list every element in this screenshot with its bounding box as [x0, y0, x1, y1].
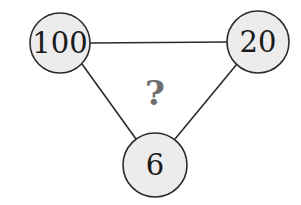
node-top-left-label: 100 — [32, 26, 87, 60]
node-bottom: 6 — [123, 133, 187, 197]
node-bottom-label: 6 — [146, 148, 164, 182]
node-top-right: 20 — [227, 11, 289, 73]
unknown-value-question-mark: ? — [145, 73, 165, 113]
node-top-right-label: 20 — [240, 25, 277, 59]
edge-left — [82, 64, 136, 139]
edge-top — [90, 42, 227, 43]
edge-right — [175, 64, 237, 139]
triangle-number-puzzle: 100 20 6 ? — [0, 0, 301, 205]
node-top-left: 100 — [30, 13, 90, 73]
